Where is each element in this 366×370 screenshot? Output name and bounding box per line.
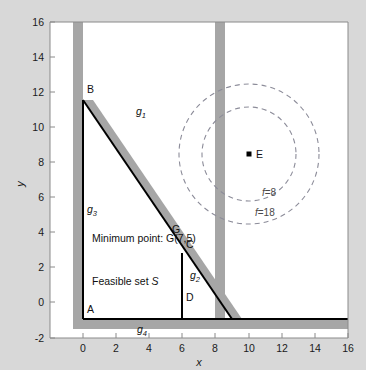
x-tick-label-12: 12 [276,342,288,354]
y-tick-label-8: 8 [38,156,44,168]
plot-svg: 16 14 12 10 8 6 4 2 0 -2 0 2 4 6 [0,0,366,370]
contour-label-f18: f=18 [255,207,275,218]
f18-value: =18 [258,207,275,218]
x-tick-label-10: 10 [243,342,255,354]
y-tick-label-0: 0 [38,296,44,308]
x-tick-label-14: 14 [309,342,321,354]
y-tick-label-12: 12 [32,86,44,98]
x-tick-label-0: 0 [80,342,86,354]
x-tick-label-4: 4 [146,342,152,354]
point-label-e: E [256,148,263,160]
y-tick-label-2: 2 [38,261,44,273]
g2-sub: 2 [195,275,201,284]
x-tick-label-16: 16 [342,342,354,354]
y-tick-label-16: 16 [32,16,44,28]
shadow-band-g3 [73,22,83,329]
shadow-band-g4 [73,319,348,329]
y-tick-label-4: 4 [38,226,44,238]
g4-sub: 4 [143,329,147,338]
y-tick-label-10: 10 [32,121,44,133]
x-axis-title: x [195,356,202,368]
vertex-label-d: D [186,291,194,303]
contour-label-f8: f=8 [262,187,277,198]
feasible-set-prefix: Feasible set [92,275,152,287]
vertex-label-b: B [87,83,94,95]
feasible-set-symbol: S [152,275,159,287]
x-tick-label-6: 6 [179,342,185,354]
g1-sub: 1 [142,111,146,120]
x-tick-label-8: 8 [212,342,218,354]
minimum-point-annotation: Minimum point: G(7,5) [92,232,196,244]
f8-value: =8 [265,187,277,198]
y-tick-label-14: 14 [32,51,44,63]
x-tick-label-2: 2 [113,342,119,354]
figure-container: 16 14 12 10 8 6 4 2 0 -2 0 2 4 6 [0,0,366,370]
point-e-marker [247,152,252,157]
y-tick-label-6: 6 [38,191,44,203]
y-tick-label-neg2: -2 [35,332,44,344]
vertex-label-a: A [87,303,94,315]
feasible-set-annotation: Feasible set S [92,275,159,287]
axes-background [50,22,348,338]
